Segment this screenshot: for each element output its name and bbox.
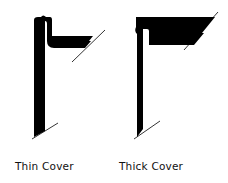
thin-cover-label: Thin Cover [15, 160, 74, 172]
thin-cover-drawing [32, 16, 105, 140]
cover-diagrams [0, 0, 228, 183]
thick-cover-drawing [134, 12, 218, 139]
thick-cover-label: Thick Cover [119, 160, 183, 172]
